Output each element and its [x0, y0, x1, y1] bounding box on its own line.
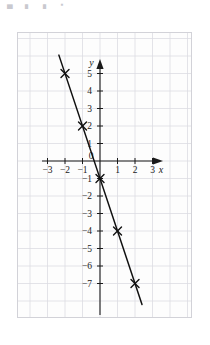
axis-tick-label: 2 — [133, 165, 138, 175]
x-axis-label: x — [158, 164, 164, 175]
axis-tick-label: 2 — [87, 121, 92, 131]
axis-tick-label: −3 — [82, 209, 92, 219]
graph-paper-panel: −3−2−112354321−1−2−3−4−5−6−70 xy — [17, 32, 192, 318]
page-root: ▄ ▖ ▖ ▪ −3−2−112354321−1−2−3−4−5−6−70 xy — [0, 0, 210, 345]
axis-tick-label: −1 — [82, 174, 92, 184]
panel-border — [18, 33, 192, 318]
y-axis-label: y — [88, 57, 94, 68]
axis-tick-label: 4 — [87, 86, 92, 96]
axis-tick-label: 3 — [87, 104, 92, 114]
axis-tick-label: −3 — [42, 165, 52, 175]
coordinate-graph: −3−2−112354321−1−2−3−4−5−6−70 xy — [17, 32, 192, 318]
grid-lines — [17, 32, 192, 318]
axis-tick-label: 1 — [115, 165, 120, 175]
axis-tick-label: −7 — [82, 279, 92, 289]
axis-tick-label: 5 — [87, 69, 92, 79]
axis-tick-label: −4 — [82, 226, 92, 236]
axis-tick-label: 3 — [150, 165, 155, 175]
clipped-header-text: ▄ ▖ ▖ ▪ — [0, 0, 210, 9]
axis-tick-label: −2 — [82, 191, 92, 201]
axis-tick-label: −2 — [60, 165, 70, 175]
axis-tick-label: −6 — [82, 261, 92, 271]
axis-tick-label: −5 — [82, 244, 92, 254]
